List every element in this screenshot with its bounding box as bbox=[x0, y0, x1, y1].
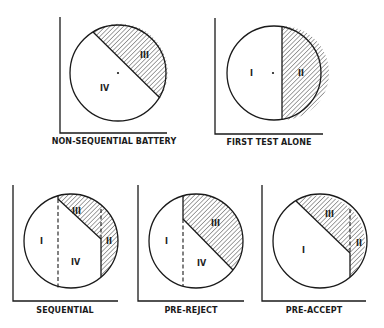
region-label-iii: III bbox=[72, 207, 81, 216]
panel-pre-accept: III I II PRE-ACCEPT bbox=[262, 185, 367, 315]
region-label-i: I bbox=[165, 237, 168, 246]
diagram-canvas: III IV NON-SEQUENTIAL BATTERY I II FIRST… bbox=[0, 0, 384, 328]
caption: NON-SEQUENTIAL BATTERY bbox=[52, 137, 177, 146]
region-label-iii: III bbox=[211, 219, 220, 228]
center-dot bbox=[272, 72, 274, 74]
region-label-iii: III bbox=[325, 210, 334, 219]
caption: FIRST TEST ALONE bbox=[226, 138, 311, 147]
region-label-i: I bbox=[302, 246, 305, 255]
region-ii-shaded bbox=[282, 26, 329, 120]
panel-pre-reject: I III IV PRE-REJECT bbox=[138, 185, 244, 315]
region-iii-ii-shaded bbox=[58, 194, 118, 277]
region-label-ii: II bbox=[356, 239, 362, 248]
caption: PRE-ACCEPT bbox=[286, 306, 343, 315]
region-label-iv: IV bbox=[71, 258, 81, 267]
panel-non-sequential-battery: III IV NON-SEQUENTIAL BATTERY bbox=[52, 17, 177, 146]
region-label-iv: IV bbox=[197, 259, 207, 268]
caption: PRE-REJECT bbox=[164, 306, 218, 315]
panel-first-test-alone: I II FIRST TEST ALONE bbox=[215, 18, 329, 147]
region-label-iv: IV bbox=[100, 84, 110, 93]
region-iii-shaded bbox=[183, 194, 243, 270]
region-label-ii: II bbox=[298, 69, 304, 78]
center-dot bbox=[117, 72, 119, 74]
region-label-i: I bbox=[40, 237, 43, 246]
caption: SEQUENTIAL bbox=[36, 306, 93, 315]
region-iii-ii-shaded bbox=[296, 195, 365, 277]
panel-sequential: I III II IV SEQUENTIAL bbox=[13, 185, 118, 315]
region-label-ii: II bbox=[106, 237, 112, 246]
region-label-iii: III bbox=[140, 51, 149, 60]
region-label-i: I bbox=[250, 69, 253, 78]
